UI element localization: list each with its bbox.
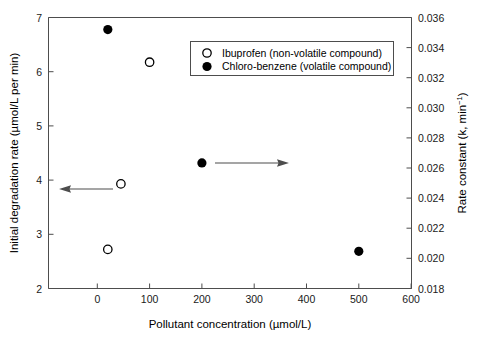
legend-label-chlorobenzene: Chloro-benzene (volatile compound)	[222, 60, 391, 72]
scatter-chart: 7 6 5 4 3 2 0.036 0.034 0.032 0.030 0.02…	[0, 0, 481, 343]
x-tick-label-300: 300	[245, 293, 263, 305]
left-tick-label-6: 6	[36, 66, 42, 78]
data-point-chlorobenzene-3	[354, 247, 363, 256]
x-axis-title: Pollutant concentration (µmol/L)	[149, 318, 312, 330]
right-tick-label-0026: 0.026	[418, 162, 444, 174]
right-tick-label-0034: 0.034	[418, 42, 444, 54]
y2-axis-title-exponent: −1	[455, 96, 464, 105]
left-tick-label-2: 2	[36, 283, 42, 295]
svg-text:Rate constant (k, min−1): Rate constant (k, min−1)	[455, 92, 468, 213]
y2-axis-title-close: )	[456, 92, 468, 96]
right-tick-label-0036: 0.036	[418, 12, 444, 24]
x-tick-label-500: 500	[350, 293, 368, 305]
x-tick-label-100: 100	[141, 293, 159, 305]
left-tick-label-7: 7	[36, 12, 42, 24]
right-tick-label-0020: 0.020	[418, 252, 444, 264]
legend-label-ibuprofen: Ibuprofen (non-volatile compound)	[222, 47, 382, 59]
legend-marker-chlorobenzene	[202, 62, 211, 71]
left-tick-label-4: 4	[36, 174, 42, 186]
y-axis-title: Initial degradation rate (µmol/L per min…	[8, 53, 20, 254]
left-tick-label-5: 5	[36, 120, 42, 132]
data-point-ibuprofen-3	[145, 58, 153, 66]
x-tick-label-200: 200	[193, 293, 211, 305]
right-tick-label-0022: 0.022	[418, 222, 444, 234]
legend: Ibuprofen (non-volatile compound) Chloro…	[191, 42, 394, 76]
legend-marker-ibuprofen	[203, 49, 211, 57]
x-tick-label-0: 0	[94, 293, 100, 305]
right-tick-label-0024: 0.024	[418, 192, 444, 204]
data-point-chlorobenzene-1	[103, 25, 112, 34]
x-tick-label-400: 400	[298, 293, 316, 305]
y2-axis-title-main: Rate constant (k, min	[456, 105, 468, 214]
left-tick-label-3: 3	[36, 228, 42, 240]
x-tick-label-600: 600	[402, 293, 420, 305]
y2-axis-title: Rate constant (k, min−1)	[455, 92, 468, 213]
data-point-ibuprofen-1	[104, 245, 112, 253]
right-tick-label-0030: 0.030	[418, 102, 444, 114]
data-point-chlorobenzene-2	[197, 158, 206, 167]
right-tick-label-0028: 0.028	[418, 132, 444, 144]
right-tick-label-0032: 0.032	[418, 72, 444, 84]
right-tick-label-0018: 0.018	[418, 283, 444, 295]
figure-container: 7 6 5 4 3 2 0.036 0.034 0.032 0.030 0.02…	[0, 0, 481, 343]
data-point-ibuprofen-2	[117, 180, 125, 188]
